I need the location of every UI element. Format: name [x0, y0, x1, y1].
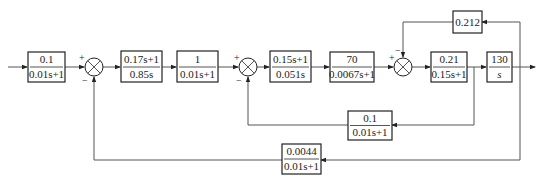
svg-text:0.15s+1: 0.15s+1: [273, 53, 308, 65]
svg-text:0.051s: 0.051s: [276, 68, 305, 80]
feedback-block-top: 0.212: [453, 11, 482, 33]
svg-text:0.85s: 0.85s: [130, 68, 154, 80]
svg-text:0.01s+1: 0.01s+1: [284, 160, 319, 172]
block-b5: 70 0.0067s+1: [329, 52, 375, 82]
block-diagram: + − + − + − 0.1 0.01s+1 0.17s+1 0.85s 1 …: [0, 0, 538, 187]
summing-junction-1: + −: [79, 52, 103, 86]
svg-text:0.1: 0.1: [40, 53, 54, 65]
summing-junction-2: + −: [234, 52, 257, 86]
svg-text:0.17s+1: 0.17s+1: [124, 53, 159, 65]
svg-text:130: 130: [491, 53, 508, 65]
svg-text:+: +: [234, 52, 240, 63]
svg-text:s: s: [497, 68, 501, 80]
svg-text:−: −: [236, 75, 242, 86]
svg-text:0.01s+1: 0.01s+1: [180, 68, 215, 80]
svg-text:0.15s+1: 0.15s+1: [431, 68, 466, 80]
feedback-block-inner: 0.1 0.01s+1: [348, 111, 392, 140]
block-b7: 130 s: [487, 52, 512, 82]
svg-text:+: +: [79, 52, 85, 63]
svg-text:0.21: 0.21: [439, 53, 458, 65]
svg-text:0.212: 0.212: [455, 16, 480, 28]
svg-text:1: 1: [195, 53, 201, 65]
block-b1: 0.1 0.01s+1: [28, 52, 65, 82]
feedback-block-outer: 0.0044 0.01s+1: [282, 144, 321, 174]
svg-text:70: 70: [347, 53, 359, 65]
svg-text:−: −: [395, 45, 401, 56]
block-b6: 0.21 0.15s+1: [431, 52, 467, 82]
summing-junction-3: + −: [389, 45, 412, 76]
svg-text:0.1: 0.1: [363, 112, 377, 124]
svg-text:0.0044: 0.0044: [286, 145, 317, 157]
svg-text:−: −: [82, 75, 88, 86]
svg-text:0.0067s+1: 0.0067s+1: [329, 68, 375, 80]
svg-text:0.01s+1: 0.01s+1: [352, 126, 387, 138]
svg-text:0.01s+1: 0.01s+1: [29, 68, 64, 80]
block-b2: 0.17s+1 0.85s: [121, 51, 162, 82]
block-b3: 1 0.01s+1: [177, 51, 218, 82]
block-b4: 0.15s+1 0.051s: [270, 51, 311, 82]
